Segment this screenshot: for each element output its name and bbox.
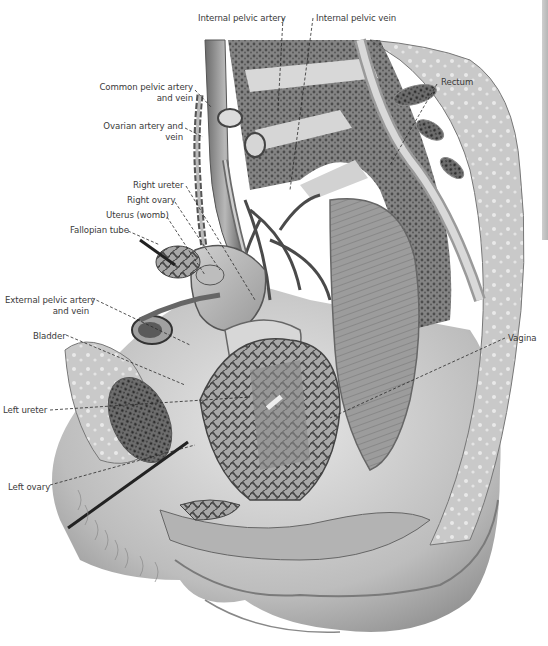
leader-line-vagina	[330, 338, 505, 418]
label-right-ureter: Right ureter	[133, 180, 183, 191]
leader-line-left-ovary	[50, 445, 195, 485]
leader-line-common-pelvic-artery-and-vein	[195, 90, 212, 108]
label-common-pelvic-artery-and-vein: Common pelvic artery and vein	[97, 82, 193, 104]
label-line-2: and vein	[97, 93, 193, 104]
leader-line-internal-pelvic-artery	[278, 18, 283, 110]
label-rectum: Rectum	[441, 77, 473, 88]
label-line-2: vein	[100, 132, 183, 143]
label-vagina: Vagina	[508, 333, 536, 344]
page-edge-strip	[542, 0, 548, 240]
label-bladder: Bladder	[33, 331, 66, 342]
label-line-1: Common pelvic artery	[97, 82, 193, 93]
pelvis-anatomy-figure: Internal pelvic artery Internal pelvic v…	[0, 0, 548, 646]
label-uterus-womb: Uterus (womb)	[106, 210, 169, 221]
label-line-2: and vein	[5, 306, 89, 317]
label-fallopian-tube: Fallopian tube	[70, 225, 129, 236]
leader-line-ovarian-artery-and-vein	[185, 128, 203, 137]
leader-lines	[0, 0, 548, 646]
leader-line-uterus-womb	[167, 217, 205, 275]
label-left-ureter: Left ureter	[3, 405, 47, 416]
leader-line-right-ovary	[175, 202, 220, 270]
leader-line-right-ureter	[186, 186, 255, 300]
label-line-1: External pelvic artery	[5, 295, 89, 306]
label-right-ovary: Right ovary	[127, 195, 176, 206]
label-external-pelvic-artery-and-vein: External pelvic artery and vein	[5, 295, 89, 317]
leader-line-internal-pelvic-vein	[290, 18, 313, 190]
leader-line-left-ureter	[50, 397, 250, 410]
leader-line-fallopian-tube	[128, 231, 160, 245]
leader-line-bladder	[66, 335, 185, 385]
label-ovarian-artery-and-vein: Ovarian artery and vein	[100, 121, 183, 143]
label-line-1: Ovarian artery and	[100, 121, 183, 132]
label-internal-pelvic-vein: Internal pelvic vein	[316, 13, 396, 24]
label-internal-pelvic-artery: Internal pelvic artery	[198, 13, 286, 24]
label-left-ovary: Left ovary	[8, 482, 50, 493]
leader-line-rectum	[390, 84, 437, 165]
leader-line-external-pelvic-artery-and-vein	[92, 298, 190, 345]
